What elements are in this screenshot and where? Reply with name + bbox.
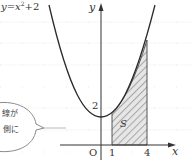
callout-text-line-2: 側に — [3, 126, 19, 134]
y-axis-label: y — [89, 2, 95, 13]
callout-text-line-1: 線が — [2, 110, 18, 118]
y-axis-arrow-icon — [99, 3, 104, 11]
y-tick-2: 2 — [92, 101, 98, 111]
origin-label: O — [89, 148, 97, 158]
equation-label: y=x2+2 — [1, 1, 39, 12]
diagram-canvas — [0, 0, 192, 163]
area-under-parabola-diagram: y=x2+2 y x O 1 4 2 S 線が 側に — [0, 0, 192, 163]
region-label-s: S — [120, 119, 127, 129]
shaded-region-s — [112, 40, 147, 145]
x-tick-4: 4 — [144, 148, 150, 158]
x-tick-1: 1 — [109, 148, 115, 158]
x-axis-label: x — [172, 146, 178, 157]
